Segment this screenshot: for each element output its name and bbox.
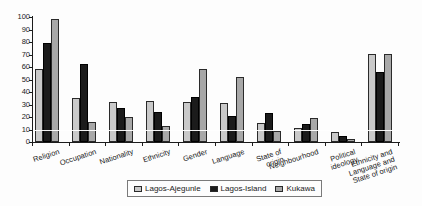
x-axis-line bbox=[32, 142, 400, 143]
bar-kukawa bbox=[236, 77, 244, 142]
x-tick-mark bbox=[361, 143, 362, 146]
bar-kukawa bbox=[162, 126, 170, 142]
bar-lagos-island bbox=[339, 136, 347, 142]
y-tick-label: 30 bbox=[6, 101, 30, 109]
legend-item-kukawa: Kukawa bbox=[275, 184, 314, 193]
bar-lagos-ajegunle bbox=[331, 132, 339, 142]
bar-lagos-ajegunle bbox=[109, 102, 117, 142]
y-tick-label: 40 bbox=[6, 88, 30, 96]
plot-area: 0102030405060708090100ReligionOccupation… bbox=[0, 0, 422, 206]
x-tick-mark bbox=[325, 143, 326, 146]
legend-label: Kukawa bbox=[286, 184, 314, 193]
y-tick-label: 70 bbox=[6, 51, 30, 59]
y-tick-label: 50 bbox=[6, 76, 30, 84]
x-tick-mark bbox=[252, 143, 253, 146]
legend-item-lagos-island: Lagos-Island bbox=[210, 184, 267, 193]
legend-swatch-icon bbox=[210, 186, 218, 192]
bar-kukawa bbox=[51, 19, 59, 142]
bar-lagos-island bbox=[191, 97, 199, 142]
x-tick-mark bbox=[142, 143, 143, 146]
bar-lagos-ajegunle bbox=[220, 103, 228, 142]
x-tick-mark bbox=[105, 143, 106, 146]
y-tick-label: 100 bbox=[6, 13, 30, 21]
x-tick-mark bbox=[398, 143, 399, 146]
bar-lagos-island bbox=[117, 108, 125, 142]
bar-kukawa bbox=[273, 131, 281, 142]
x-tick-mark bbox=[32, 143, 33, 146]
bar-lagos-ajegunle bbox=[72, 98, 80, 142]
x-tick-mark bbox=[288, 143, 289, 146]
bar-lagos-island bbox=[154, 112, 162, 142]
bar-lagos-ajegunle bbox=[35, 69, 43, 142]
overlay-gridline bbox=[33, 130, 399, 131]
bar-lagos-ajegunle bbox=[146, 101, 154, 142]
bar-kukawa bbox=[347, 139, 355, 142]
y-tick-label: 10 bbox=[6, 126, 30, 134]
legend-item-lagos-ajegunle: Lagos-Ajegunle bbox=[134, 184, 201, 193]
legend-label: Lagos-Island bbox=[221, 184, 267, 193]
legend-label: Lagos-Ajegunle bbox=[145, 184, 201, 193]
bar-lagos-island bbox=[265, 113, 273, 142]
y-tick-label: 60 bbox=[6, 63, 30, 71]
x-tick-mark bbox=[215, 143, 216, 146]
y-tick-label: 80 bbox=[6, 38, 30, 46]
bar-lagos-ajegunle bbox=[257, 123, 265, 142]
x-tick-mark bbox=[69, 143, 70, 146]
y-tick-label: 0 bbox=[6, 138, 30, 146]
bar-lagos-ajegunle bbox=[183, 102, 191, 142]
legend-swatch-icon bbox=[134, 186, 142, 192]
bar-kukawa bbox=[88, 122, 96, 142]
bar-lagos-island bbox=[376, 72, 384, 142]
bar-kukawa bbox=[199, 69, 207, 142]
x-tick-mark bbox=[178, 143, 179, 146]
legend: Lagos-AjegunleLagos-IslandKukawa bbox=[127, 180, 322, 197]
y-tick-label: 20 bbox=[6, 113, 30, 121]
legend-swatch-icon bbox=[275, 186, 283, 192]
bar-chart: 0102030405060708090100ReligionOccupation… bbox=[0, 0, 422, 206]
bar-lagos-island bbox=[302, 124, 310, 142]
bar-lagos-island bbox=[43, 43, 51, 142]
y-tick-label: 90 bbox=[6, 26, 30, 34]
